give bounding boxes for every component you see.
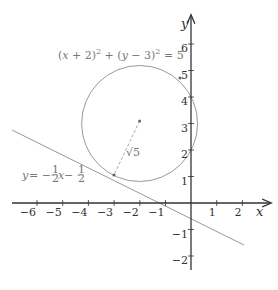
y-tick-label: 1: [181, 175, 188, 188]
x-tick-label: −3: [97, 206, 113, 219]
x-tick-label: −4: [71, 206, 87, 219]
tangent-point: [112, 173, 115, 176]
y-tick-label: 4: [181, 95, 188, 108]
x-tick-label: −6: [20, 206, 36, 219]
x-tick-label: −5: [45, 206, 61, 219]
x-tick-label: 1: [209, 206, 216, 219]
svg-text:y: y: [21, 169, 29, 182]
y-tick-label: 5: [181, 69, 188, 82]
svg-text:2: 2: [78, 172, 85, 185]
diagram-canvas: −6 −5 −4 −3 −2 −1 1 2 6 5 4 3 2 1 −1 −2 …: [0, 0, 278, 290]
x-tick-label: 2: [234, 206, 241, 219]
y-tick-label: 2: [181, 148, 188, 161]
y-axis-label: y: [180, 16, 189, 31]
line-equation: y = − 1 2 x − 1 2: [21, 163, 85, 185]
center-point: [138, 120, 141, 123]
y-tick-label: −1: [172, 228, 188, 241]
coordinate-plane: −6 −5 −4 −3 −2 −1 1 2 6 5 4 3 2 1 −1 −2 …: [0, 0, 278, 290]
y-tick-label: 3: [181, 122, 188, 135]
radius-label: √5: [126, 146, 140, 159]
svg-text:= −: = −: [29, 169, 51, 182]
y-tick-label: −2: [172, 254, 188, 267]
x-tick-label: −1: [148, 206, 164, 219]
circle-equation: (x + 2)2 + (y − 3)2 = 5: [58, 47, 184, 62]
x-tick-label: −2: [123, 206, 139, 219]
svg-text:−: −: [64, 169, 73, 182]
x-axis-label: x: [256, 204, 264, 219]
